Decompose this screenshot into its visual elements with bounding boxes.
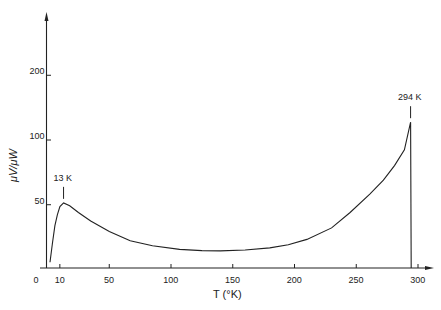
x-axis-arrow-icon xyxy=(425,266,434,270)
annotation-label: 13 K xyxy=(54,174,73,183)
annotation-label: 294 K xyxy=(398,93,422,102)
x-tick-label: 300 xyxy=(410,276,425,285)
chart-canvas xyxy=(0,0,441,310)
x-ticks xyxy=(60,264,418,268)
y-tick-label: 200 xyxy=(29,67,44,76)
x-tick-label: 150 xyxy=(225,276,240,285)
x-tick-label: 200 xyxy=(287,276,302,285)
annotation-markers xyxy=(64,106,411,199)
x-tick-label: 250 xyxy=(348,276,363,285)
y-axis-arrow-icon xyxy=(45,12,49,21)
y-axis-title: μV/μW xyxy=(8,149,19,182)
data-line xyxy=(50,122,411,268)
y-tick-label: 50 xyxy=(35,197,45,206)
y-tick-label: 100 xyxy=(29,132,44,141)
x-tick-label: 50 xyxy=(104,276,114,285)
x-tick-label: 0 xyxy=(33,276,38,285)
x-tick-label: 10 xyxy=(55,276,65,285)
x-axis-title: T (°K) xyxy=(213,289,242,300)
y-ticks xyxy=(47,75,52,204)
x-tick-label: 100 xyxy=(163,276,178,285)
axes xyxy=(40,12,434,270)
